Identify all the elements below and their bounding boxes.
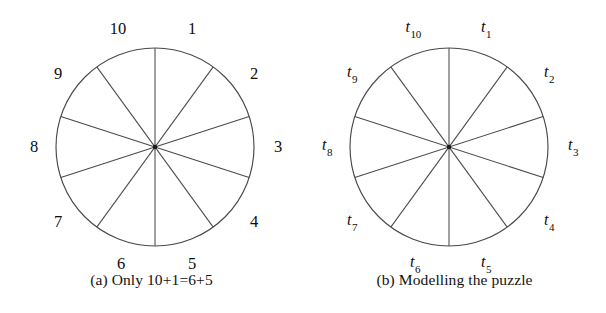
sector-label-subscript: 10 — [410, 29, 421, 41]
sector-label-t2: t2 — [544, 64, 554, 83]
sector-label-text: 3 — [274, 137, 282, 156]
sector-label-t10: t10 — [405, 19, 420, 38]
circle-center-dot — [447, 145, 451, 149]
figure-panel-a: 12345678910 (a) Only 10+1=6+5 — [0, 0, 303, 313]
sector-label-text: t — [322, 136, 326, 153]
sector-label-subscript: 9 — [352, 74, 357, 86]
sector-label-text: 4 — [250, 212, 258, 231]
sector-label-text: t — [544, 211, 548, 228]
sector-label-subscript: 4 — [549, 222, 554, 234]
pie-diagram-b: t1t2t3t4t5t6t7t8t9t10 — [303, 0, 606, 270]
pie-geometry-a — [56, 48, 254, 246]
sector-label-text: 7 — [54, 212, 62, 231]
caption-a: (a) Only 10+1=6+5 — [0, 270, 303, 290]
sector-label-10: 10 — [110, 21, 127, 38]
pie-geometry-b — [350, 48, 548, 246]
sector-label-subscript: 1 — [486, 29, 491, 41]
sector-label-9: 9 — [54, 66, 62, 83]
sector-label-t7: t7 — [347, 212, 357, 231]
sector-label-t4: t4 — [544, 212, 554, 231]
sector-label-text: 8 — [30, 137, 38, 156]
sector-label-2: 2 — [250, 66, 258, 83]
caption-b: (b) Modelling the puzzle — [303, 270, 606, 290]
sector-label-text: t — [410, 253, 414, 270]
sector-label-text: 2 — [250, 64, 258, 83]
sector-label-text: t — [481, 253, 485, 270]
figure-root: 12345678910 (a) Only 10+1=6+5 t1t2t3t4t5… — [0, 0, 606, 313]
sector-label-text: t — [568, 136, 572, 153]
sector-label-text: t — [347, 63, 351, 80]
sector-label-t8: t8 — [322, 137, 332, 156]
sector-label-7: 7 — [54, 214, 62, 231]
sector-label-text: 10 — [110, 19, 127, 38]
sector-label-text: t — [481, 18, 485, 35]
sector-label-text: 9 — [54, 64, 62, 83]
figure-panel-b: t1t2t3t4t5t6t7t8t9t10 (b) Modelling the … — [303, 0, 606, 313]
pie-diagram-a: 12345678910 — [0, 0, 303, 270]
sector-label-3: 3 — [274, 139, 282, 156]
sector-label-t3: t3 — [568, 137, 578, 156]
sector-label-subscript: 3 — [573, 147, 578, 159]
sector-label-subscript: 8 — [327, 147, 332, 159]
sector-label-4: 4 — [250, 214, 258, 231]
sector-label-t9: t9 — [347, 64, 357, 83]
sector-label-text: t — [405, 18, 409, 35]
sector-label-text: t — [544, 63, 548, 80]
sector-label-8: 8 — [30, 139, 38, 156]
sector-label-subscript: 2 — [549, 74, 554, 86]
sector-label-t1: t1 — [481, 19, 491, 38]
sector-label-text: 1 — [188, 19, 196, 38]
sector-label-1: 1 — [188, 21, 196, 38]
sector-label-subscript: 7 — [352, 222, 357, 234]
circle-center-dot — [153, 145, 157, 149]
sector-label-text: t — [347, 211, 351, 228]
